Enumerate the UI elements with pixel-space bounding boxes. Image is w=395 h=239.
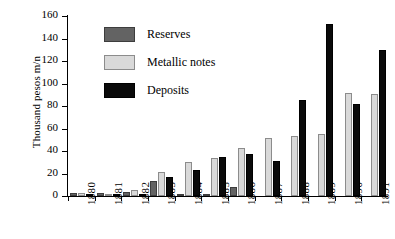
x-tick-mark	[228, 196, 229, 201]
legend-item-reserves: Reserves	[104, 24, 215, 44]
bar-reserves-1880	[70, 193, 77, 196]
y-tick-label: 120	[42, 53, 59, 65]
legend-swatch-reserves	[104, 27, 135, 42]
bar-deposits-1883	[166, 177, 173, 196]
y-tick-label: 100	[42, 76, 59, 88]
bar-notes-1884	[185, 162, 192, 196]
x-tick-mark	[148, 196, 149, 201]
legend-label-reserves: Reserves	[147, 27, 190, 42]
bar-notes-1888	[291, 136, 298, 196]
y-tick-label: 160	[42, 8, 59, 20]
x-tick-mark	[68, 196, 69, 201]
x-tick-mark	[175, 196, 176, 201]
legend-item-notes: Metallic notes	[104, 52, 215, 72]
y-axis-title: Thousand pesos m/n	[30, 17, 42, 187]
bar-reserves-1883	[150, 181, 157, 196]
bar-deposits-1882	[139, 194, 146, 196]
bar-reserves-1886	[230, 187, 237, 196]
bar-reserves-1882	[123, 192, 130, 197]
legend-swatch-notes	[104, 55, 135, 70]
bar-deposits-1889	[326, 24, 333, 196]
bar-deposits-1884	[193, 170, 200, 196]
bar-notes-1889	[318, 134, 325, 196]
bar-reserves-1881	[97, 193, 104, 196]
bar-notes-1883	[158, 172, 165, 196]
x-tick-mark	[201, 196, 202, 201]
bar-notes-1880	[78, 193, 85, 196]
bar-deposits-1887	[273, 161, 280, 196]
bar-reserves-1884	[177, 194, 184, 196]
x-tick-mark	[335, 196, 336, 201]
y-tick-label: 40	[47, 143, 58, 155]
x-tick-mark	[308, 196, 309, 201]
x-tick-mark	[255, 196, 256, 201]
bar-notes-1886	[238, 148, 245, 196]
y-tick-label: 20	[47, 166, 58, 178]
bar-notes-1890	[345, 93, 352, 197]
legend-label-notes: Metallic notes	[147, 55, 215, 70]
x-tick-mark	[95, 196, 96, 201]
bar-notes-1881	[105, 194, 112, 196]
bar-notes-1885	[211, 158, 218, 196]
bar-notes-1887	[265, 138, 272, 197]
bar-deposits-1880	[86, 194, 93, 196]
bar-deposits-1890	[353, 104, 360, 196]
legend-swatch-deposits	[104, 83, 135, 98]
bar-notes-1891	[371, 94, 378, 196]
legend-label-deposits: Deposits	[147, 83, 189, 98]
bar-deposits-1888	[299, 100, 306, 196]
bar-deposits-1885	[219, 157, 226, 196]
bar-deposits-1891	[379, 50, 386, 196]
y-tick-label: 60	[47, 121, 58, 133]
x-tick-mark	[121, 196, 122, 201]
bar-notes-1882	[131, 190, 138, 196]
x-tick-mark	[361, 196, 362, 201]
y-tick-label: 80	[47, 98, 58, 110]
bar-deposits-1886	[246, 154, 253, 196]
chart-legend: ReservesMetallic notesDeposits	[104, 24, 215, 108]
y-tick-label: 0	[53, 188, 59, 200]
y-tick-label: 140	[42, 31, 59, 43]
legend-item-deposits: Deposits	[104, 80, 215, 100]
bar-reserves-1885	[203, 194, 210, 196]
bar-chart: Thousand pesos m/n 020406080100120140160…	[0, 0, 395, 239]
bar-deposits-1881	[113, 194, 120, 196]
x-tick-mark	[281, 196, 282, 201]
